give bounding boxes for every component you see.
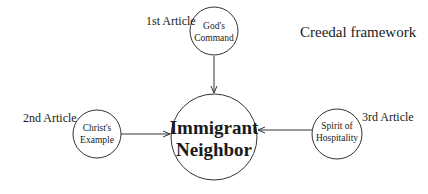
- node-spirit-of-hospitality: Spirit of Hospitality: [312, 109, 362, 159]
- center-line2: Neighbor: [176, 139, 253, 160]
- node-line1: Spirit of: [321, 121, 353, 131]
- node-line2: Example: [80, 135, 114, 145]
- creedal-framework-diagram: Creedal framework God's Command 1st Arti…: [0, 0, 428, 194]
- node-line2: Command: [194, 33, 234, 43]
- node-line2: Hospitality: [316, 133, 358, 143]
- node-line1: Christ's: [83, 123, 112, 133]
- node-christs-example: Christ's Example: [73, 110, 121, 158]
- label-2nd-article: 2nd Article: [23, 111, 77, 125]
- label-1st-article: 1st Article: [146, 14, 196, 28]
- node-gods-command: God's Command: [190, 7, 238, 55]
- diagram-title: Creedal framework: [300, 24, 417, 40]
- node-line1: God's: [203, 21, 225, 31]
- node-circle: [73, 110, 121, 158]
- node-circle: [190, 7, 238, 55]
- center-line1: Immigrant: [170, 117, 259, 138]
- node-immigrant-neighbor: Immigrant Neighbor: [170, 94, 259, 180]
- label-3rd-article: 3rd Article: [362, 110, 414, 124]
